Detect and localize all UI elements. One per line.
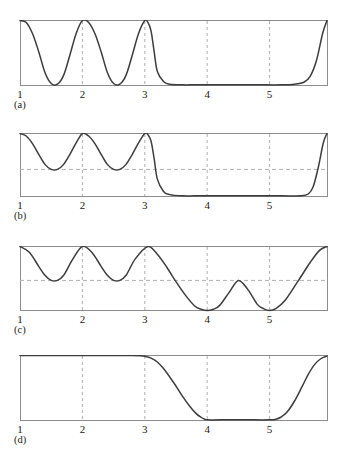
plot-area-b xyxy=(0,133,345,198)
plot-frame xyxy=(21,356,328,421)
x-tick-label-4: 4 xyxy=(204,312,210,326)
x-axis-tick-labels: 12345 xyxy=(0,422,345,436)
x-tick-label-4: 4 xyxy=(204,422,210,436)
panel-caption-d: (d) xyxy=(14,433,26,446)
x-tick-label-4: 4 xyxy=(204,198,210,212)
x-tick-label-2: 2 xyxy=(80,312,86,326)
x-tick-label-3: 3 xyxy=(142,198,148,212)
x-axis-tick-labels: 12345 xyxy=(0,198,345,212)
x-tick-label-2: 2 xyxy=(80,87,86,101)
plot-panel-a: 12345 xyxy=(0,20,345,87)
x-tick-label-3: 3 xyxy=(142,422,148,436)
data-curve-b xyxy=(20,133,327,196)
plot-panel-c: 12345 xyxy=(0,246,345,312)
x-axis-tick-labels: 12345 xyxy=(0,312,345,326)
data-curve-c xyxy=(20,246,327,310)
x-tick-label-5: 5 xyxy=(267,312,273,326)
plot-panel-b: 12345 xyxy=(0,133,345,198)
x-tick-label-3: 3 xyxy=(142,312,148,326)
x-tick-label-3: 3 xyxy=(142,87,148,101)
plot-panel-d: 12345 xyxy=(0,355,345,422)
x-tick-label-2: 2 xyxy=(80,422,86,436)
x-tick-label-2: 2 xyxy=(80,198,86,212)
x-tick-label-5: 5 xyxy=(267,422,273,436)
x-axis-tick-labels: 12345 xyxy=(0,87,345,101)
figure-container: 12345(a)12345(b)12345(c)12345(d) xyxy=(0,0,345,470)
plot-area-a xyxy=(0,20,345,87)
data-curve-d xyxy=(20,355,327,419)
panel-caption-b: (b) xyxy=(14,209,26,222)
plot-frame xyxy=(21,134,328,197)
plot-frame xyxy=(21,21,328,86)
x-tick-label-4: 4 xyxy=(204,87,210,101)
x-tick-label-5: 5 xyxy=(267,198,273,212)
x-tick-label-5: 5 xyxy=(267,87,273,101)
plot-area-c xyxy=(0,246,345,312)
data-curve-a xyxy=(20,20,327,85)
panel-caption-c: (c) xyxy=(14,323,26,336)
panel-caption-a: (a) xyxy=(14,98,26,111)
plot-area-d xyxy=(0,355,345,422)
